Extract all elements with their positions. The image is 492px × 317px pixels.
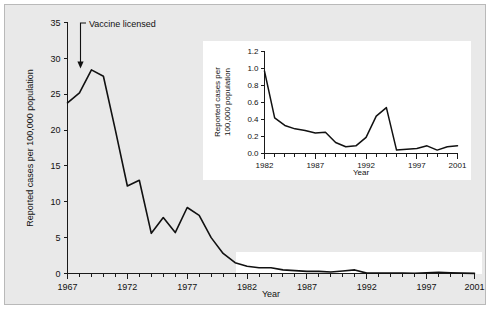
inset-x-tick-label: 2001	[449, 161, 467, 170]
inset-x-tick-group	[265, 154, 458, 159]
inset-y-axis-title-line1: Reported cases per	[213, 67, 222, 137]
inset-x-tick-label: 1982	[256, 161, 274, 170]
inset-y-tick-label: 1.2	[247, 47, 259, 56]
inset-series-line	[265, 71, 458, 150]
inset-y-tick-label: 0.8	[247, 81, 259, 90]
inset-x-tick-label: 1997	[408, 161, 426, 170]
figure-root: 05101520253035 1967197219771982198719921…	[0, 0, 492, 317]
inset-x-tick-label: 1987	[306, 161, 324, 170]
inset-y-tick-label: 0.4	[247, 115, 259, 124]
inset-y-tick-group	[261, 52, 265, 154]
inset-y-tick-label: 0.2	[247, 132, 259, 141]
inset-y-tick-label: 0.0	[247, 149, 259, 158]
inset-y-tick-label: 1.0	[247, 64, 259, 73]
inset-x-axis-title: Year	[353, 168, 370, 177]
inset-chart: 0.00.20.40.60.81.01.2 198219871992199720…	[0, 0, 492, 317]
inset-y-tick-label-group: 0.00.20.40.60.81.01.2	[247, 47, 259, 158]
inset-y-tick-label: 0.6	[247, 98, 259, 107]
inset-y-axis-title-line2: 100,000 population	[223, 68, 232, 136]
